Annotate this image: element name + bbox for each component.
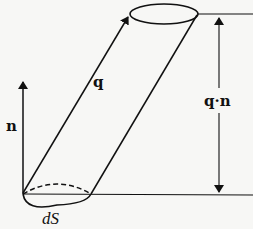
tube-right-edge (91, 15, 197, 194)
bottom-ellipse-front (23, 194, 91, 207)
label-q-dot-n: q·n (204, 94, 231, 109)
label-dS: dS (42, 210, 59, 227)
tube-left-edge-q-vector (23, 17, 128, 193)
diagram-canvas (0, 0, 253, 229)
bottom-ellipse-back-dashed (23, 184, 91, 194)
label-q: q (93, 75, 104, 90)
label-n: n (6, 119, 17, 134)
bottom-reference-line (23, 194, 253, 195)
top-ellipse (130, 4, 198, 24)
